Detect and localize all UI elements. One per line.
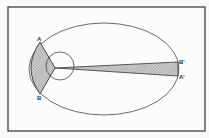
label-a: A [37,36,42,42]
label-b-prime: B' [179,59,185,65]
label-b: B [37,95,42,101]
label-a-prime: A' [179,74,185,80]
kepler-diagram: A B B' A' [0,0,209,138]
